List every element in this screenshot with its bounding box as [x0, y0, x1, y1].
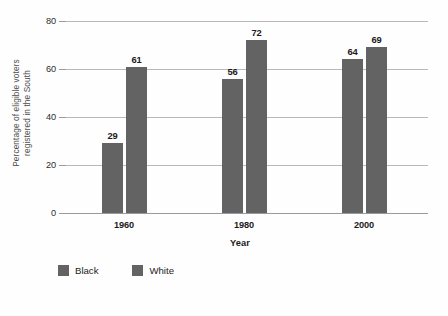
x-tick-label-1960: 1960 — [114, 220, 134, 230]
y-axis-title-line-2: registered in the South — [22, 59, 33, 167]
y-tickmark-40 — [59, 117, 66, 118]
bar-value-1980-black: 56 — [227, 66, 237, 77]
gridline-80: 80 — [66, 21, 428, 22]
bar-1960-black[interactable]: 29 — [102, 143, 123, 213]
legend-entry-white[interactable]: White — [132, 265, 174, 276]
legend-label-white: White — [149, 265, 174, 276]
y-tick-label-20: 20 — [46, 160, 56, 170]
legend-label-black: Black — [75, 265, 98, 276]
bar-2000-white[interactable]: 69 — [366, 47, 387, 213]
bar-value-1980-white: 72 — [251, 27, 261, 38]
x-axis-baseline: 0 — [66, 213, 428, 214]
bar-value-1960-black: 29 — [107, 130, 117, 141]
x-tick-label-2000: 2000 — [354, 220, 374, 230]
chart-legend: Black White — [58, 265, 174, 276]
y-tickmark-80 — [59, 21, 66, 22]
y-axis-title: Percentage of eligible voters registered… — [0, 0, 44, 226]
y-tickmark-20 — [59, 165, 66, 166]
bar-chart-figure: Percentage of eligible voters registered… — [0, 0, 448, 316]
legend-swatch-black-icon — [58, 265, 69, 276]
x-axis-title: Year — [0, 238, 448, 248]
bar-2000-black[interactable]: 64 — [342, 59, 363, 213]
y-tick-label-0: 0 — [51, 208, 56, 218]
bar-value-1960-white: 61 — [131, 54, 141, 65]
y-axis-title-line-1: Percentage of eligible voters — [11, 59, 22, 167]
y-tickmark-60 — [59, 69, 66, 70]
y-tickmark-0 — [59, 213, 66, 214]
bar-1980-black[interactable]: 56 — [222, 79, 243, 213]
bar-value-2000-white: 69 — [371, 34, 381, 45]
y-tick-label-40: 40 — [46, 112, 56, 122]
x-axis-title-text: Year — [230, 238, 250, 248]
bar-1960-white[interactable]: 61 — [126, 67, 147, 213]
legend-swatch-white-icon — [132, 265, 143, 276]
y-tick-label-80: 80 — [46, 16, 56, 26]
plot-area: 80 60 40 20 0 29 61 1960 56 — [66, 21, 428, 213]
bar-value-2000-black: 64 — [347, 46, 357, 57]
y-tick-label-60: 60 — [46, 64, 56, 74]
legend-entry-black[interactable]: Black — [58, 265, 98, 276]
bar-1980-white[interactable]: 72 — [246, 40, 267, 213]
x-tick-label-1980: 1980 — [234, 220, 254, 230]
